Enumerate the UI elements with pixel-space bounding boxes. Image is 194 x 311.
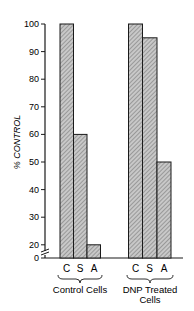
- y-tick-40: 40: [29, 185, 39, 195]
- y-axis-label: % CONTROL: [12, 115, 22, 170]
- y-tick-30: 30: [29, 212, 39, 222]
- bar-group-control-cells: [60, 24, 101, 258]
- group-label-control-cells: Control Cells: [53, 284, 108, 295]
- y-tick-50: 50: [29, 157, 39, 167]
- bar-control-s: [74, 134, 88, 258]
- brace-icon-control: [58, 275, 102, 283]
- y-tick-80: 80: [29, 74, 39, 84]
- cat-label-dnp-a: A: [161, 263, 168, 274]
- cat-label-control-s: S: [77, 263, 84, 274]
- brace-icon-dnp: [127, 275, 173, 283]
- y-tick-20: 20: [29, 240, 39, 250]
- cat-label-dnp-s: S: [146, 263, 153, 274]
- cat-label-control-c: C: [63, 263, 70, 274]
- bar-dnp-s: [143, 38, 158, 258]
- bar-dnp-a: [157, 162, 171, 258]
- bar-group-dnp-treated: [129, 24, 172, 258]
- group-label-dnp-line2: Cells: [139, 294, 160, 305]
- bar-chart: 100 90 80 70 60 50 40 30 20 0 % CONTROL …: [0, 0, 194, 311]
- bar-control-a: [87, 245, 101, 258]
- cat-label-dnp-c: C: [132, 263, 139, 274]
- y-tick-90: 90: [29, 47, 39, 57]
- y-tick-0: 0: [34, 253, 39, 263]
- y-tick-100: 100: [24, 19, 39, 29]
- y-tick-60: 60: [29, 129, 39, 139]
- bar-dnp-c: [129, 24, 143, 258]
- y-tick-70: 70: [29, 102, 39, 112]
- cat-label-control-a: A: [91, 263, 98, 274]
- y-axis: 100 90 80 70 60 50 40 30 20 0: [24, 19, 49, 263]
- bar-control-c: [60, 24, 74, 258]
